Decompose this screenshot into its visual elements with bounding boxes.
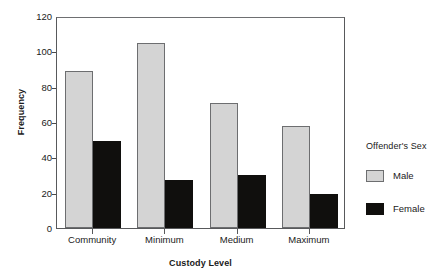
bar-maximum-female [310,194,338,228]
bars-layer [57,18,344,228]
bar-maximum-male [282,126,310,228]
y-tick-label: 40 [18,153,52,163]
y-axis-tick-labels: 020406080100120 [14,0,52,280]
x-axis-title: Custody Level [56,258,345,268]
legend-title: Offender's Sex [366,141,446,151]
legend-item-male: Male [366,169,446,182]
bar-minimum-female [165,180,193,228]
legend: Offender's Sex Male Female [366,141,446,235]
x-tick-label: Medium [220,234,254,245]
y-tick-mark [52,158,56,159]
bar-chart-figure: Frequency 020406080100120 CommunityMinim… [0,0,446,280]
plot-area [56,17,345,229]
y-tick-label: 0 [18,224,52,234]
bar-community-male [65,71,93,228]
y-tick-mark [52,52,56,53]
y-tick-label: 20 [18,189,52,199]
y-tick-mark [52,88,56,89]
y-tick-mark [52,123,56,124]
bar-community-female [93,141,121,228]
legend-label-female: Female [393,203,425,214]
legend-label-male: Male [393,170,414,181]
y-tick-label: 60 [18,118,52,128]
y-tick-label: 80 [18,83,52,93]
y-tick-mark [52,194,56,195]
x-tick-label: Community [68,234,116,245]
x-tick-label: Maximum [288,234,329,245]
legend-item-female: Female [366,202,446,215]
bar-medium-female [238,175,266,228]
y-tick-label: 100 [18,47,52,57]
bar-medium-male [210,103,238,228]
x-tick-label: Minimum [145,234,184,245]
legend-swatch-female-icon [366,203,384,215]
bar-minimum-male [137,43,165,229]
legend-swatch-male-icon [366,170,384,182]
y-tick-label: 120 [18,12,52,22]
